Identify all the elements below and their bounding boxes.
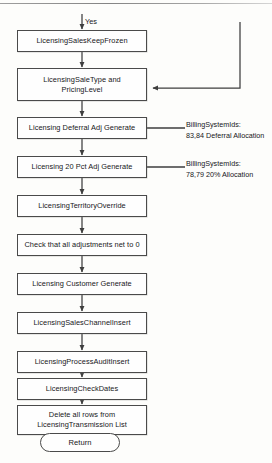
annotation-deferral-allocation: BillingSystemIds: 83,84 Deferral Allocat…: [186, 120, 264, 141]
process-node-licensing-sale-type-pricing-level[interactable]: LicensingSaleType and PricingLevel: [17, 68, 147, 101]
process-node-licensing-sales-keep-frozen[interactable]: LicensingSalesKeepFrozen: [17, 30, 147, 52]
process-node-licensing-20-pct-adj-generate[interactable]: Licensing 20 Pct Adj Generate: [17, 156, 147, 178]
process-node-delete-rows-licensing-transmission-list[interactable]: Delete all rows from LicensingTransmissi…: [17, 405, 147, 435]
process-node-licensing-sales-channel-insert[interactable]: LicensingSalesChannelInsert: [17, 312, 147, 334]
process-node-check-adjustments-net-to-zero[interactable]: Check that all adjustments net to 0: [17, 234, 147, 256]
process-node-licensing-check-dates[interactable]: LicensingCheckDates: [17, 378, 147, 400]
entry-yes-label: Yes: [85, 17, 97, 26]
terminator-return[interactable]: Return: [40, 433, 120, 452]
process-node-licensing-territory-override[interactable]: LicensingTerritoryOverride: [17, 195, 147, 217]
process-node-licensing-customer-generate[interactable]: Licensing Customer Generate: [17, 273, 147, 295]
connector-feedback-loop: [153, 22, 240, 88]
process-node-licensing-process-audit-insert[interactable]: LicensingProcessAuditInsert: [17, 351, 147, 373]
process-node-licensing-deferral-adj-generate[interactable]: Licensing Deferral Adj Generate: [17, 117, 147, 139]
annotation-20-pct-allocation: BillingSystemIds: 78,79 20% Allocation: [186, 159, 253, 180]
